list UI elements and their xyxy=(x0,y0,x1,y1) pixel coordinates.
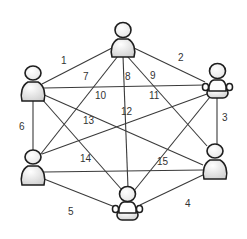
edge-2 xyxy=(134,48,205,82)
edge-15 xyxy=(133,97,210,192)
edge-label-10: 10 xyxy=(95,90,107,101)
person-d-icon xyxy=(21,150,45,185)
edge-label-4: 4 xyxy=(185,198,191,209)
edge-label-11: 11 xyxy=(149,90,160,101)
edge-4 xyxy=(140,174,205,205)
edge-label-8: 8 xyxy=(125,71,131,82)
edge-label-14: 14 xyxy=(80,153,92,164)
person-b-icon xyxy=(21,66,45,101)
edge-label-13: 13 xyxy=(83,115,95,126)
edge-label-1: 1 xyxy=(61,55,67,66)
edge-label-12: 12 xyxy=(121,106,133,117)
edge-label-7: 7 xyxy=(83,71,89,82)
edge-label-15: 15 xyxy=(157,156,169,167)
person-c-icon xyxy=(203,64,233,99)
person-a-icon xyxy=(111,23,135,58)
person-e-icon xyxy=(203,144,227,179)
person-f-icon xyxy=(113,187,143,221)
edge-label-6: 6 xyxy=(19,121,25,132)
edge-1 xyxy=(42,48,112,84)
edge-9 xyxy=(127,56,207,146)
edge-label-2: 2 xyxy=(178,52,184,63)
edge-label-3: 3 xyxy=(222,112,228,123)
network-diagram: 1 2 3 4 5 6 7 8 9 10 11 12 13 14 15 xyxy=(0,0,247,239)
edge-12 xyxy=(44,170,203,172)
edge-5 xyxy=(44,179,115,207)
edge-label-5: 5 xyxy=(68,206,74,217)
edge-label-9: 9 xyxy=(150,70,156,81)
